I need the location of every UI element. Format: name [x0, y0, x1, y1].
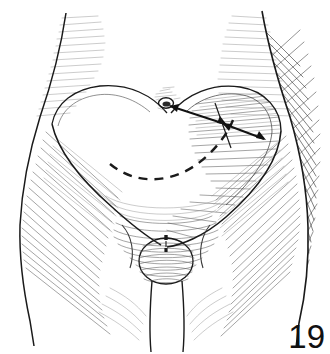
figure-illustration: 19: [0, 0, 330, 354]
anatomical-drawing-canvas: [0, 0, 330, 354]
drawing-background: [0, 0, 330, 354]
figure-number-label: 19: [288, 320, 325, 353]
